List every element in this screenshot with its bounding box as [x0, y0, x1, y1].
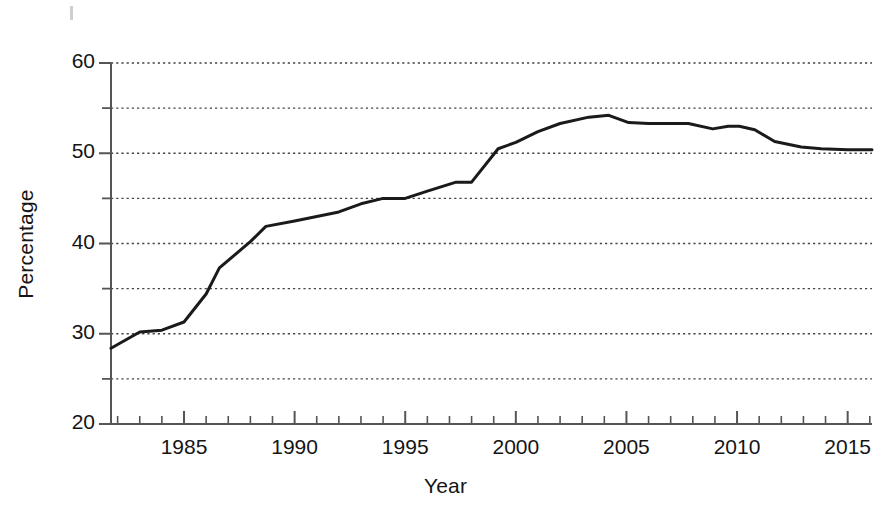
ytick-label-30: 30 [35, 320, 95, 344]
xtick-label-2015: 2015 [803, 435, 891, 459]
xtick-label-2005: 2005 [581, 435, 671, 459]
ytick-label-60: 60 [35, 49, 95, 73]
xtick-label-2000: 2000 [471, 435, 561, 459]
x-axis-title: Year [0, 474, 891, 498]
ytick-label-50: 50 [35, 139, 95, 163]
gridlines-group [111, 63, 872, 424]
y-ticks-group [99, 63, 111, 424]
line-chart: 2030405060 1985199019952000200520102015 … [0, 0, 891, 518]
ytick-label-40: 40 [35, 230, 95, 254]
ytick-label-20: 20 [35, 410, 95, 434]
xtick-label-1995: 1995 [360, 435, 450, 459]
xtick-label-1985: 1985 [139, 435, 229, 459]
data-series-line [111, 115, 872, 348]
y-axis-title: Percentage [14, 164, 38, 324]
x-ticks-group [118, 411, 870, 424]
xtick-label-1990: 1990 [250, 435, 340, 459]
xtick-label-2010: 2010 [692, 435, 782, 459]
